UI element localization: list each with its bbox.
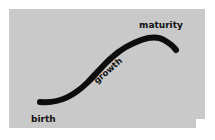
label-maturity: maturity [139,20,183,30]
growth-curve-figure: birth growth maturity [0,0,215,140]
label-birth: birth [31,114,56,124]
panel-corner-notch [196,119,205,128]
diagram-canvas: birth growth maturity [0,0,215,140]
